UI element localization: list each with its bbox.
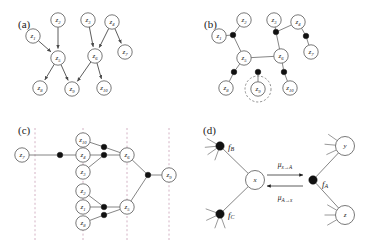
panel-b-nodes: z1z2z3z4z5z6z7z8z9z10 <box>212 13 318 96</box>
edge-z8-to-f-c5 <box>90 216 102 220</box>
panel-d-label: (d) <box>203 124 216 137</box>
edge-fB-to-x <box>223 149 248 173</box>
edge-fC-to-x <box>223 187 248 211</box>
panel-a: (a) z1z2z3z4z5z6z7z8z9z10 <box>0 0 186 123</box>
stub-fC-2 <box>206 216 216 221</box>
edge-z3-to-z6 <box>89 27 93 47</box>
panel-a-edges <box>38 27 121 81</box>
factor-node-fB <box>216 142 224 150</box>
panel-a-nodes: z1z2z3z4z5z6z7z8z9z10 <box>26 13 132 96</box>
factor-node-f-c1 <box>57 152 63 158</box>
edge-z5-to-z8 <box>45 64 54 80</box>
factor-node-f-c5 <box>101 212 107 218</box>
panel-d-variable-nodes: xyz <box>246 137 355 225</box>
factor-node-f-z8 <box>231 69 237 75</box>
factor-node-f-z10 <box>281 69 287 75</box>
edge-z6-to-f-c6 <box>132 160 146 173</box>
panel-c-label: (c) <box>18 124 31 137</box>
edge-fA-to-y <box>316 153 339 177</box>
edge-z4-to-f-z7 <box>302 28 305 33</box>
edge-z5-to-z6 <box>251 56 274 57</box>
panel-d-stubs <box>205 134 337 228</box>
panel-b-label: (b) <box>204 18 217 31</box>
factor-label-fB: fB <box>228 142 235 152</box>
factor-node-f-z6 <box>273 29 279 35</box>
edge-f-z10-to-z10 <box>285 75 287 82</box>
edge-z1-to-z5 <box>38 41 51 52</box>
panel-c-nodes: z7z10z4z3z6z2z1z8z5z9 <box>15 133 176 230</box>
stub-fB-0 <box>215 150 219 160</box>
panel-c: (c) z7z10z4z3z6z2z1z8z5z9 <box>0 122 190 245</box>
stub-y-2 <box>328 134 337 140</box>
edge-z4-to-f-z6 <box>279 25 292 31</box>
panel-d-factor-nodes: fBfCfA <box>216 142 329 221</box>
message-label-mu-x-to-A: μx→A <box>278 160 293 170</box>
stub-fC-1 <box>215 218 219 228</box>
edge-z4-to-z6 <box>99 28 109 47</box>
factor-label-fC: fC <box>228 210 236 220</box>
panel-d-messages: μx→AμA→x <box>267 160 303 203</box>
variable-node-label-z: z <box>343 211 347 219</box>
factor-label-fA: fA <box>322 179 329 189</box>
factor-node-f-c3 <box>101 152 107 158</box>
edge-z5-to-f-z8 <box>236 64 240 70</box>
factor-node-f-c6 <box>145 172 151 178</box>
edge-f-z7-to-z7 <box>307 39 309 45</box>
figure-root: (a) z1z2z3z4z5z6z7z8z9z10 (b) z1z2z3z4z5… <box>0 0 371 245</box>
edge-z2-to-f-c4 <box>89 195 102 205</box>
factor-node-f-z7 <box>303 33 309 39</box>
edge-f-z6-to-z6 <box>277 35 280 49</box>
panel-b: (b) z1z2z3z4z5z6z7z8z9z10 <box>186 0 371 123</box>
factor-node-f-z9 <box>255 69 261 75</box>
edge-f-z5-to-z5 <box>234 38 241 52</box>
stub-y-0 <box>326 150 336 155</box>
factor-node-f-c2 <box>101 144 107 150</box>
stub-z-2 <box>327 205 337 211</box>
message-label-mu-A-to-x: μA→x <box>278 193 293 203</box>
stub-fB-2 <box>205 146 216 147</box>
factor-node-f-c4 <box>101 204 107 210</box>
edge-z6-to-z10 <box>97 63 102 79</box>
panel-a-label: (a) <box>18 18 31 31</box>
edge-z5-to-f-c6 <box>131 177 147 201</box>
edge-f-z8-to-z8 <box>229 75 233 82</box>
stub-fC-3 <box>206 209 216 213</box>
stub-y-1 <box>325 144 336 145</box>
factor-node-fA <box>309 176 317 184</box>
edge-z4-to-z7 <box>115 29 121 44</box>
factor-node-f-z5 <box>230 32 236 38</box>
edge-z6-to-z9 <box>77 62 91 81</box>
stub-fB-3 <box>207 138 217 144</box>
stub-fB-1 <box>208 148 217 154</box>
stub-fC-0 <box>221 218 225 228</box>
edge-f-c5-to-z5 <box>107 209 121 214</box>
panel-d: (d) xyz fBfCfA μx→AμA→x <box>185 122 371 245</box>
edge-f-c2-to-z6 <box>107 148 121 153</box>
edge-z6-to-f-z10 <box>282 63 283 69</box>
edge-z2-to-f-z5 <box>235 26 240 33</box>
edge-z5-to-z9 <box>61 65 68 81</box>
stub-z-0 <box>327 220 337 226</box>
edge-z10-to-f-c2 <box>90 142 102 146</box>
factor-node-fC <box>216 210 224 218</box>
panel-c-edges <box>29 142 162 220</box>
edge-z3-to-f-c3 <box>89 157 102 168</box>
